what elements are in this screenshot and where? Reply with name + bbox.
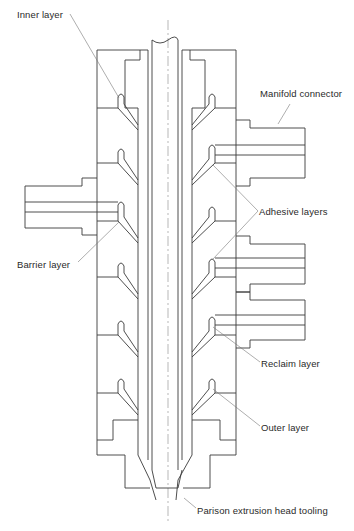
label-inner-layer: Inner layer (17, 9, 63, 20)
label-manifold-connector: Manifold connector (260, 88, 342, 99)
right-feeds (192, 94, 236, 415)
label-barrier-layer: Barrier layer (17, 259, 70, 270)
manifold-connector-1 (215, 120, 305, 186)
label-outer-layer: Outer layer (261, 422, 309, 433)
left-feeds (97, 94, 138, 415)
mandrel (152, 37, 182, 488)
flow-channel (125, 50, 205, 500)
label-parison-tooling: Parison extrusion head tooling (197, 505, 328, 516)
manifold-connector-3 (215, 292, 305, 348)
label-adhesive-layers: Adhesive layers (259, 206, 328, 217)
barrier-connector (25, 178, 118, 235)
leader-lines (70, 14, 290, 508)
label-reclaim-layer: Reclaim layer (261, 358, 320, 369)
manifold-connector-2 (215, 236, 305, 292)
